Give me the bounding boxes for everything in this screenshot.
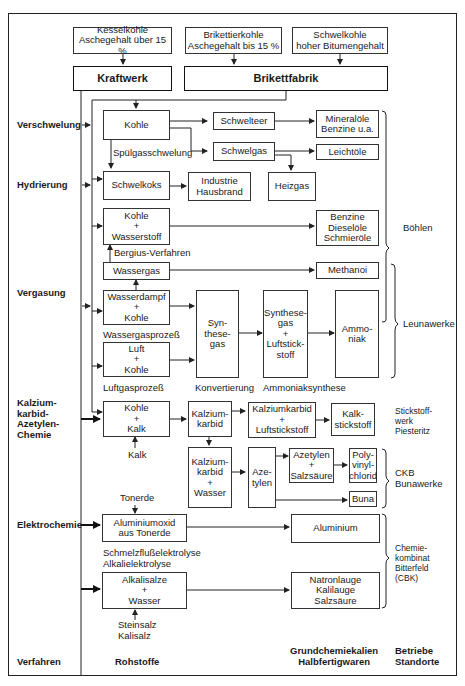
header-rohstoffe: Rohstoffe <box>115 657 159 668</box>
header-verfahren: Verfahren <box>17 657 61 668</box>
int-azetylen: Aze- tylen <box>248 447 276 508</box>
int-heizgas: Heizgas <box>268 172 316 201</box>
rm-wasserdampf-kohle: Wasserdampf + Kohle <box>103 290 170 325</box>
rm-alkalisalze: Alkalisalze + Wasser <box>102 572 187 609</box>
rm-luft-kohle: Luft + Kohle <box>103 342 170 377</box>
int-schwelteer: Schwelteer <box>213 112 275 130</box>
rm-kohle: Kohle <box>103 110 170 140</box>
prod-ammoniak: Ammo- niak <box>335 290 379 378</box>
int-kalziumkarbid: Kalzium- karbid <box>188 401 232 437</box>
label-steinsalz: Steinsalz Kalisalz <box>118 620 157 641</box>
rm-schwelkoks: Schwelkoks <box>103 171 170 200</box>
process-elektrochemie: Elektrochemie <box>17 520 82 531</box>
source-brikettierkohle: Brikettierkohle Aschegehalt bis 15 % <box>185 27 282 54</box>
prod-pvc: Poly- vinyl- chlorid <box>349 448 377 483</box>
prod-benzine: Benzine Dieselöle Schmieröle <box>316 210 379 246</box>
site-ckb: CKB Bunawerke <box>395 468 443 489</box>
int-synthesegas: Syn- these- gas <box>196 290 239 378</box>
int-industrie-hausbrand: Industrie Hausbrand <box>188 172 251 201</box>
rm-kohle-wasserstoff: Kohle + Wasserstoff <box>103 208 170 245</box>
process-kalziumkarbid-chemie: Kalzium- karbid- Azetylen- Chemie <box>17 398 59 440</box>
prod-natronlauge: Natronlauge Kalilauge Salzsäure <box>291 572 380 609</box>
int-schwelgas: Schwelgas <box>213 142 275 161</box>
process-vergasung: Vergasung <box>17 288 66 299</box>
int-kalziumkarbid-luftstickstoff: Kalziumkarbid + Luftstickstoff <box>248 402 316 438</box>
site-piesteritz: Stickstoff- werk Piesteritz <box>395 406 432 436</box>
prod-leichtoele: Leichtöle <box>316 144 379 160</box>
label-tonerde: Tonerde <box>120 493 154 504</box>
int-azetylen-salzsaeure: Azetylen + Salzsäure <box>289 448 334 483</box>
process-verschwelung: Verschwelung <box>17 120 81 131</box>
prod-aluminium: Aluminium <box>291 514 380 543</box>
label-bergius: Bergius-Verfahren <box>114 248 191 259</box>
prod-kalkstickstoff: Kalk- stickstoff <box>331 403 375 436</box>
prod-mineraloele: Mineralöle Benzine u.a. <box>316 110 379 138</box>
label-wassergasprozess: Wassergasprozeß <box>103 330 180 341</box>
plant-kraftwerk: Kraftwerk <box>73 66 172 91</box>
rm-kohle-kalk: Kohle + Kalk <box>103 401 170 437</box>
plant-brikettfabrik: Brikettfabrik <box>184 66 388 91</box>
header-grundchemiekalien: Grundchemiekalien Halbfertigwaren <box>290 646 378 667</box>
site-leunawerke: Leunawerke <box>403 319 455 330</box>
header-betriebe: Betriebe Standorte <box>395 646 439 667</box>
label-elektrolyse: Schmelzflußelektrolyse Alkalielektrolyse <box>103 548 201 569</box>
label-ammoniaksynthese: Ammoniaksynthese <box>263 383 346 394</box>
rm-wassergas: Wassergas <box>103 262 170 280</box>
prod-buna: Buna <box>349 491 377 507</box>
label-konvertierung: Konvertierung <box>195 383 254 394</box>
process-hydrierung: Hydrierung <box>17 180 68 191</box>
int-synthesegas-luftstickstoff: Synthese- gas + Luftstick- stoff <box>263 290 308 378</box>
label-luftgasprozess: Luftgasprozeß <box>103 383 164 394</box>
rm-aluminiumoxid: Aluminiumoxid aus Tonerde <box>102 514 187 542</box>
site-cbk: Chemie- kombinat Bitterfeld (CBK) <box>395 543 430 583</box>
source-kesselkohle: Kesselkohle Aschegehalt über 15 % <box>73 27 172 54</box>
int-kalziumkarbid-wasser: Kalzium- karbid + Wasser <box>188 447 232 508</box>
site-boehlen: Böhlen <box>403 223 433 234</box>
source-schwelkohle: Schwelkohle hoher Bitumengehalt <box>292 27 388 54</box>
label-spuelgasschwelung: Spülgasschwelung <box>113 148 192 159</box>
label-kalk: Kalk <box>128 450 146 461</box>
prod-methanol: Methanoi <box>316 262 379 279</box>
